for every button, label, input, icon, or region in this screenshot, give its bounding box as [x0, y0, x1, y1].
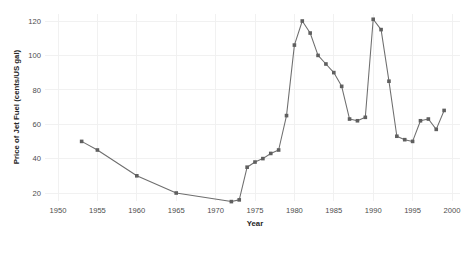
data-point-marker	[80, 140, 84, 144]
y-tick-label: 60	[33, 120, 41, 129]
data-point-marker	[419, 119, 423, 123]
data-point-marker	[285, 114, 289, 118]
data-point-marker	[135, 174, 139, 178]
chart-canvas: 1950195519601965197019751980198519901995…	[0, 0, 470, 268]
data-point-marker	[96, 148, 100, 152]
x-tick-label: 1975	[247, 206, 264, 215]
x-axis-title: Year	[247, 219, 263, 228]
y-tick-label: 80	[33, 86, 41, 95]
data-point-marker	[237, 198, 241, 202]
data-point-marker	[348, 117, 352, 121]
data-point-marker	[403, 138, 407, 142]
data-point-marker	[308, 31, 312, 35]
data-point-marker	[261, 157, 265, 161]
x-tick-label: 1995	[404, 206, 421, 215]
y-tick-label: 100	[28, 51, 41, 60]
data-point-marker	[364, 116, 368, 120]
x-tick-label: 1970	[207, 206, 224, 215]
y-tick-label: 20	[33, 189, 41, 198]
chart-background	[0, 0, 470, 268]
data-point-marker	[356, 119, 360, 123]
data-point-marker	[434, 128, 438, 132]
data-point-marker	[245, 165, 249, 169]
data-point-marker	[395, 134, 399, 138]
data-point-marker	[379, 28, 383, 32]
x-tick-label: 1980	[286, 206, 303, 215]
data-point-marker	[269, 152, 273, 156]
jet-fuel-price-chart: 1950195519601965197019751980198519901995…	[0, 0, 470, 268]
y-tick-label: 120	[28, 17, 41, 26]
x-tick-label: 1985	[325, 206, 342, 215]
data-point-marker	[387, 79, 391, 83]
data-point-marker	[316, 54, 320, 58]
data-point-marker	[411, 140, 415, 144]
data-point-marker	[427, 117, 431, 121]
data-point-marker	[324, 62, 328, 66]
x-tick-label: 1960	[128, 206, 145, 215]
data-point-marker	[371, 17, 375, 21]
x-tick-label: 2000	[444, 206, 461, 215]
x-tick-label: 1990	[365, 206, 382, 215]
data-point-marker	[340, 85, 344, 89]
data-point-marker	[253, 160, 257, 164]
data-point-marker	[230, 200, 234, 204]
data-point-marker	[174, 191, 178, 195]
y-axis-title: Price of Jet Fuel (cents/US gal)	[12, 49, 21, 164]
data-point-marker	[300, 19, 304, 23]
data-point-marker	[293, 43, 297, 47]
x-tick-label: 1955	[89, 206, 106, 215]
x-tick-label: 1965	[168, 206, 185, 215]
data-point-marker	[332, 71, 336, 75]
data-point-marker	[442, 109, 446, 113]
data-point-marker	[277, 148, 281, 152]
y-tick-label: 40	[33, 154, 41, 163]
x-tick-label: 1950	[50, 206, 67, 215]
